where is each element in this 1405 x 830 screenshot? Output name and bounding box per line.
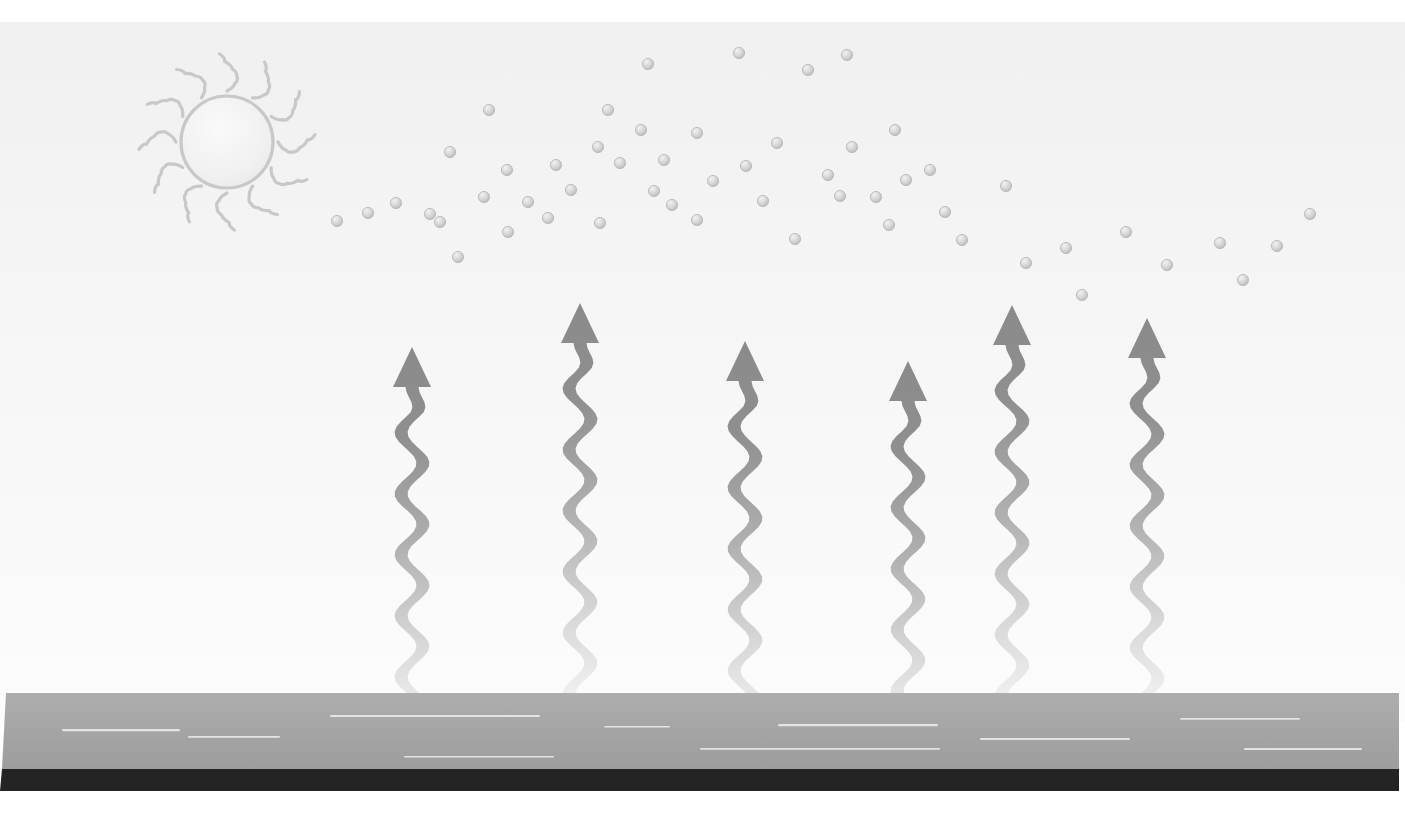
vapour-particle (771, 137, 782, 148)
vapour-particle (565, 184, 576, 195)
vapour-particle (648, 185, 659, 196)
vapour-particle (956, 234, 967, 245)
vapour-particle (841, 49, 852, 60)
vapour-particle (1000, 180, 1011, 191)
vapour-particle (390, 197, 401, 208)
water-highlight-streak (980, 738, 1130, 740)
vapour-particle (691, 214, 702, 225)
vapour-particle (522, 196, 533, 207)
vapour-particle (900, 174, 911, 185)
vapour-particle (483, 104, 494, 115)
vapour-particle (1120, 226, 1131, 237)
vapour-particle (924, 164, 935, 175)
vapour-particle (1076, 289, 1087, 300)
vapour-particle (452, 251, 463, 262)
vapour-particle (331, 215, 342, 226)
vapour-particle (939, 206, 950, 217)
vapour-particle (691, 127, 702, 138)
vapour-particle (707, 175, 718, 186)
vapour-particle (1161, 259, 1172, 270)
vapour-particle (592, 141, 603, 152)
water-highlight-streak (700, 748, 940, 750)
vapour-particle (846, 141, 857, 152)
vapour-particle (870, 191, 881, 202)
vapour-particle (1304, 208, 1315, 219)
vapour-particle (822, 169, 833, 180)
vapour-particle (1237, 274, 1248, 285)
vapour-particle (502, 226, 513, 237)
vapour-particle (834, 190, 845, 201)
vapour-particle (658, 154, 669, 165)
vapour-particle (635, 124, 646, 135)
vapour-particle (802, 64, 813, 75)
water-surface (0, 693, 1399, 791)
vapour-particle (733, 47, 744, 58)
sun-core (181, 96, 273, 188)
vapour-particle (883, 219, 894, 230)
water-highlight-streak (404, 756, 554, 758)
vapour-particle (550, 159, 561, 170)
water-highlight-streak (604, 726, 670, 728)
water-highlight-streak (188, 736, 280, 738)
vapour-particle (602, 104, 613, 115)
vapour-particle (501, 164, 512, 175)
vapour-particle (444, 146, 455, 157)
vapour-particle (1020, 257, 1031, 268)
vapour-particle (889, 124, 900, 135)
vapour-particle (757, 195, 768, 206)
vapour-particle (434, 216, 445, 227)
vapour-particle (594, 217, 605, 228)
water-highlight-streak (330, 715, 540, 717)
evaporation-diagram: Evaporation from a water surface sun wat… (0, 0, 1405, 830)
illustration-stage: Evaporation from a water surface sun wat… (0, 0, 1405, 830)
water-highlight-streak (1244, 748, 1362, 750)
vapour-particle (362, 207, 373, 218)
vapour-particle (478, 191, 489, 202)
vapour-particle (666, 199, 677, 210)
water-band (2, 693, 1399, 769)
ground-dark-band (0, 769, 1399, 791)
vapour-particle (424, 208, 435, 219)
vapour-particle (1214, 237, 1225, 248)
vapour-particle (542, 212, 553, 223)
vapour-particle (1271, 240, 1282, 251)
water-highlight-streak (62, 729, 180, 731)
vapour-particle (614, 157, 625, 168)
vapour-particle (1060, 242, 1071, 253)
vapour-particle (642, 58, 653, 69)
vapour-particle (740, 160, 751, 171)
water-highlight-streak (1180, 718, 1300, 720)
water-highlight-streak (778, 724, 938, 726)
vapour-particle (789, 233, 800, 244)
